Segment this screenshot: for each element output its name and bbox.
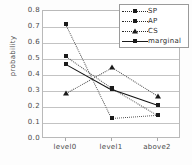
chart-legend: SPAPCSmarginal [119, 4, 189, 48]
data-point-ap [156, 113, 160, 117]
legend-marker-icon [133, 9, 137, 13]
data-point-sp [64, 22, 68, 26]
legend-marker-icon [133, 39, 137, 43]
y-tick-label: 0.6 [10, 38, 40, 46]
y-tick-label: 0.0 [10, 134, 40, 142]
y-tick-label: 0.5 [10, 54, 40, 62]
legend-item-ap[interactable]: AP [122, 16, 186, 26]
y-tick-label: 0.3 [10, 86, 40, 94]
data-point-sp [110, 116, 114, 120]
legend-marker-icon [132, 28, 138, 33]
data-point-cs [109, 65, 115, 70]
data-point-marginal [64, 62, 68, 66]
legend-swatch-icon [122, 27, 148, 36]
y-tick-label: 0.4 [10, 70, 40, 78]
data-point-marginal [156, 103, 160, 107]
y-tick-label: 0.8 [10, 6, 40, 14]
series-line-marginal [66, 64, 112, 90]
gridline [43, 123, 179, 124]
legend-label: marginal [148, 37, 181, 46]
x-tick-label: level1 [85, 143, 137, 151]
y-axis-tick-labels: 0.00.10.20.30.40.50.60.70.8 [10, 10, 40, 138]
legend-label: AP [148, 17, 158, 26]
x-axis-tick-labels: level0level1above2 [42, 143, 180, 157]
legend-item-marginal[interactable]: marginal [122, 36, 186, 46]
legend-item-sp[interactable]: SP [122, 6, 186, 16]
x-tick-label: level0 [39, 143, 91, 151]
y-tick-label: 0.7 [10, 22, 40, 30]
x-tick-mark [157, 138, 158, 141]
gridline [43, 75, 179, 76]
series-line-sp [112, 115, 158, 119]
legend-marker-icon [133, 19, 137, 23]
legend-item-cs[interactable]: CS [122, 26, 186, 36]
x-tick-mark [111, 138, 112, 141]
chart-figure: probability 0.00.10.20.30.40.50.60.70.8 … [0, 0, 192, 165]
data-point-marginal [110, 87, 114, 91]
legend-label: SP [148, 7, 157, 16]
y-tick-label: 0.1 [10, 118, 40, 126]
x-tick-label: above2 [131, 143, 183, 151]
x-tick-mark [65, 138, 66, 141]
y-tick-label: 0.2 [10, 102, 40, 110]
legend-swatch-icon [122, 17, 148, 26]
legend-swatch-icon [122, 7, 148, 16]
gridline [43, 59, 179, 60]
data-point-ap [64, 54, 68, 58]
data-point-cs [155, 93, 161, 98]
legend-label: CS [148, 27, 158, 36]
data-point-cs [63, 90, 69, 95]
legend-swatch-icon [122, 37, 148, 46]
